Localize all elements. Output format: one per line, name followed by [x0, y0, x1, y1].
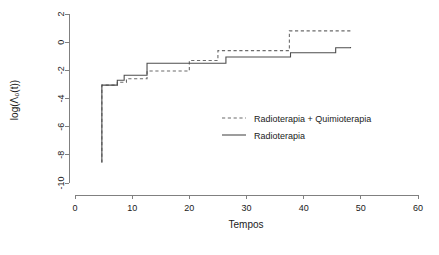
x-axis: 0102030405060 — [72, 195, 423, 213]
y-tick-label-3: -4 — [56, 94, 66, 102]
y-tick-label-0: 2 — [56, 11, 66, 16]
chart-container: 20-2-4-6-8-10 0102030405060 Radioterapia… — [0, 0, 439, 255]
x-tick-label-5: 50 — [356, 203, 366, 213]
y-tick-label-6: -10 — [56, 176, 66, 189]
series-line-1 — [102, 47, 351, 162]
y-tick-label-5: -8 — [56, 151, 66, 159]
legend-label-0: Radioterapia + Quimioterapia — [254, 114, 371, 124]
y-axis-label: log(Λ₀(t)) — [9, 80, 20, 120]
x-tick-label-6: 60 — [413, 203, 423, 213]
x-axis-label: Tempos — [228, 219, 263, 230]
y-tick-label-4: -6 — [56, 123, 66, 131]
y-tick-label-1: 0 — [56, 40, 66, 45]
x-tick-label-1: 10 — [127, 203, 137, 213]
y-tick-group: 20-2-4-6-8-10 — [56, 11, 69, 189]
x-tick-label-0: 0 — [72, 203, 77, 213]
series-line-0 — [102, 29, 351, 163]
x-tick-label-4: 40 — [299, 203, 309, 213]
y-axis: 20-2-4-6-8-10 — [56, 11, 69, 189]
chart-svg: 20-2-4-6-8-10 0102030405060 Radioterapia… — [0, 0, 439, 255]
x-tick-label-2: 20 — [184, 203, 194, 213]
y-tick-label-2: -2 — [56, 66, 66, 74]
x-tick-label-3: 30 — [241, 203, 251, 213]
data-curves — [102, 29, 351, 163]
legend-label-1: Radioterapia — [254, 131, 305, 141]
chart-legend: Radioterapia + QuimioterapiaRadioterapia — [222, 114, 371, 141]
x-tick-group: 0102030405060 — [72, 195, 423, 213]
